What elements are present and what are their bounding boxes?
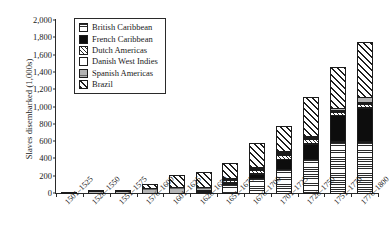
y-tick-mark [53, 175, 56, 176]
x-tick-mark [244, 193, 245, 197]
legend-item: French Caribbean [79, 33, 158, 44]
x-tick-mark [110, 193, 111, 197]
y-tick-mark [53, 54, 56, 55]
legend-label: Danish West Indies [92, 57, 158, 66]
bar-segment-brazil [303, 97, 319, 136]
legend-swatch-british-caribbean [79, 23, 88, 32]
legend-label: British Caribbean [92, 23, 152, 32]
bar-segment-british-caribbean [357, 142, 373, 194]
y-tick-mark [53, 106, 56, 107]
x-tick-mark [56, 193, 57, 197]
stacked-bar-chart: Slaves disembarked (1,000s) 020040060080… [0, 0, 389, 248]
legend-swatch-dutch-americas [79, 46, 88, 55]
legend-label: Spanish Americas [92, 69, 153, 78]
y-tick-mark [53, 123, 56, 124]
x-tick-mark [378, 193, 379, 197]
x-tick-mark [83, 193, 84, 197]
y-tick-mark [53, 37, 56, 38]
x-tick-mark [298, 193, 299, 197]
x-tick-mark [190, 193, 191, 197]
legend-item: Dutch Americas [79, 45, 158, 56]
x-tick-mark [163, 193, 164, 197]
y-tick-mark [53, 71, 56, 72]
y-tick-mark [53, 158, 56, 159]
x-tick-mark [351, 193, 352, 197]
y-tick-mark [53, 89, 56, 90]
legend-swatch-brazil [79, 80, 88, 89]
legend-label: French Caribbean [92, 35, 153, 44]
legend-item: Danish West Indies [79, 56, 158, 67]
bar-segment-brazil [330, 67, 346, 108]
bar-segment-french-caribbean [357, 108, 373, 143]
x-tick-mark [217, 193, 218, 197]
legend-item: Brazil [79, 79, 158, 90]
legend-item: Spanish Americas [79, 68, 158, 79]
bar-segment-brazil [276, 126, 292, 152]
legend-swatch-danish-west-indies [79, 57, 88, 66]
bar-segment-french-caribbean [330, 115, 346, 142]
x-tick-mark [271, 193, 272, 197]
bar-1776–1800 [357, 42, 373, 193]
bar-segment-french-caribbean [276, 159, 292, 170]
legend-swatch-french-caribbean [79, 35, 88, 44]
y-tick-mark [53, 141, 56, 142]
y-tick-mark [53, 20, 56, 21]
chart-legend: British CaribbeanFrench CaribbeanDutch A… [74, 18, 166, 94]
legend-swatch-spanish-americas [79, 69, 88, 78]
bar-1751–1775 [330, 67, 346, 193]
bar-1676–1700 [249, 143, 265, 193]
bar-segment-brazil [357, 42, 373, 97]
x-tick-mark [137, 193, 138, 197]
legend-label: Brazil [92, 80, 113, 89]
x-tick-mark [324, 193, 325, 197]
bar-segment-french-caribbean [303, 144, 319, 160]
legend-item: British Caribbean [79, 22, 158, 33]
legend-label: Dutch Americas [92, 46, 147, 55]
bar-segment-british-caribbean [330, 142, 346, 194]
bar-segment-brazil [249, 143, 265, 168]
